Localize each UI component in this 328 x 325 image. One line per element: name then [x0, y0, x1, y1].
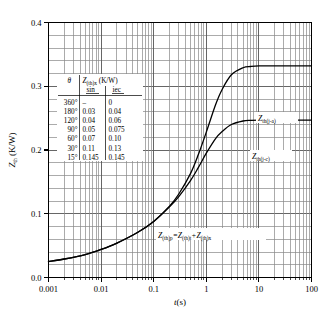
y-tick-label: 0.0: [31, 273, 42, 283]
y-tick-label: 0.4: [31, 18, 42, 28]
inset-table-cell-iec: 0.04: [109, 108, 122, 116]
inset-table-cell-theta: 360°: [64, 99, 78, 107]
x-tick-label: 1: [204, 284, 208, 294]
x-tick-label: 100: [305, 284, 318, 294]
inset-table-cell-sin: 0.11: [83, 145, 96, 153]
inset-table-cell-sin: –: [82, 99, 87, 107]
inset-table-row: 60°0.070.10: [67, 135, 121, 143]
inset-table-row: 180°0.030.04: [64, 108, 122, 116]
inset-table-cell-iec: 0.06: [109, 117, 122, 125]
inset-table-cell-sin: 0.05: [83, 126, 96, 134]
x-tick-label: 0.001: [39, 284, 58, 294]
svg-text:t(s): t(s): [174, 297, 186, 307]
inset-table-cell-sin: 0.03: [83, 108, 96, 116]
x-axis-title: t(s): [174, 297, 186, 307]
inset-table-row: 120°0.040.06: [64, 117, 122, 125]
inset-table-cell-iec: 0.145: [109, 154, 126, 162]
inset-table-cell-iec: 0.13: [109, 145, 122, 153]
y-tick-label: 0.2: [31, 145, 42, 155]
inset-table-row: 30°0.110.13: [67, 145, 121, 153]
inset-table-cell-theta: 120°: [64, 117, 78, 125]
inset-table-header-theta: θ: [68, 77, 72, 85]
inset-table-cell-iec: 0: [109, 99, 113, 107]
inset-table-cell-theta: 30°: [67, 145, 77, 153]
inset-table-cell-sin: 0.04: [83, 117, 96, 125]
inset-table-cell-theta: 90°: [67, 126, 77, 134]
x-tick-label: 10: [255, 284, 264, 294]
inset-table-subheader-iec: iec: [113, 86, 121, 94]
inset-table-cell-theta: 180°: [64, 108, 78, 116]
inset-table-cell-sin: 0.145: [83, 154, 100, 162]
y-tick-label: 0.3: [31, 81, 42, 91]
inset-table-cell-sin: 0.07: [83, 135, 96, 143]
chart-canvas: 0.00.10.20.30.40.0010.010.1110100t(s)Zth…: [0, 0, 328, 325]
inset-table-cell-iec: 0.075: [109, 126, 126, 134]
inset-table: θZ(th)x (K/W)siniec360°–0180°0.030.04120…: [57, 74, 143, 162]
formula-annotation: Z(th)p=Z(th)t+Z(th)x: [156, 228, 266, 242]
inset-table-cell-theta: 60°: [67, 135, 77, 143]
inset-table-row: 15°0.1450.145: [67, 154, 125, 162]
x-tick-label: 0.1: [148, 284, 159, 294]
x-tick-label: 0.01: [94, 284, 109, 294]
inset-table-cell-iec: 0.10: [109, 135, 122, 143]
inset-table-subheader-sin: sin: [87, 86, 96, 94]
inset-table-cell-theta: 15°: [67, 154, 77, 162]
thermal-impedance-chart: 0.00.10.20.30.40.0010.010.1110100t(s)Zth…: [0, 0, 328, 325]
y-tick-label: 0.1: [31, 209, 42, 219]
